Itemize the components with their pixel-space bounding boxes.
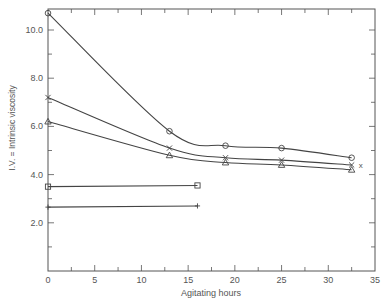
y-tick-label: 10.0: [25, 25, 43, 35]
y-tick-label: 6.0: [30, 121, 43, 131]
series-plus: [45, 203, 200, 209]
plot-border: [48, 9, 375, 271]
chart: 051015202530352.04.06.08.010.0 x Agitati…: [0, 0, 390, 304]
series-line: [48, 206, 197, 207]
data-series: x: [45, 10, 363, 209]
x-tick-label: 35: [370, 275, 380, 285]
x-tick-label: 0: [45, 275, 50, 285]
x-tick-label: 25: [277, 275, 287, 285]
series-line: [48, 185, 197, 186]
series-circle: [45, 10, 354, 160]
x-tick-label: 10: [136, 275, 146, 285]
y-axis-label: I.V. = Intrinsic viscosity: [7, 85, 17, 171]
x-tick-label: 30: [323, 275, 333, 285]
series-square: [45, 183, 200, 189]
plot-frame: [48, 9, 375, 271]
x-axis-label: Agitating hours: [181, 288, 242, 298]
cross-end-marker-label: x: [359, 161, 363, 170]
axis-tick-labels: 051015202530352.04.06.08.010.0: [25, 25, 380, 285]
y-tick-label: 2.0: [30, 218, 43, 228]
x-tick-label: 5: [92, 275, 97, 285]
y-tick-label: 4.0: [30, 170, 43, 180]
x-tick-label: 15: [183, 275, 193, 285]
series-line: [48, 13, 352, 158]
y-tick-label: 8.0: [30, 73, 43, 83]
axis-ticks: [48, 9, 375, 271]
series-cross: [45, 95, 354, 168]
x-tick-label: 20: [230, 275, 240, 285]
series-line: [48, 97, 352, 164]
